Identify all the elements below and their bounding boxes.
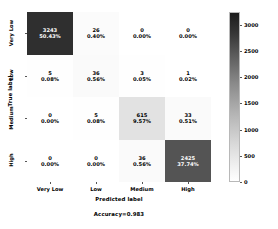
colorbar-tick-mark-5: [240, 51, 242, 52]
cell-percent: 9.57%: [133, 118, 151, 124]
matrix-cell-2-0: 0 0.00%: [27, 97, 73, 140]
matrix-cell-3-2: 36 0.56%: [119, 140, 165, 183]
matrix-cell-3-0: 0 0.00%: [27, 140, 73, 183]
x-tick-mark-0: [50, 182, 51, 184]
colorbar: 0 500 1000 1500 2000 2500 3000: [229, 12, 240, 182]
colorbar-tick-mark-0: [240, 182, 242, 183]
cell-percent: 50.43%: [39, 33, 61, 39]
cell-percent: 0.51%: [179, 118, 197, 124]
matrix-cell-0-1: 26 0.40%: [73, 12, 119, 55]
matrix-cell-3-1: 0 0.00%: [73, 140, 119, 183]
x-tick-mark-2: [142, 182, 143, 184]
cell-percent: 0.00%: [41, 118, 59, 124]
cell-percent: 0.00%: [179, 33, 197, 39]
cell-percent: 0.05%: [133, 76, 151, 82]
cell-percent: 0.40%: [87, 33, 105, 39]
confusion-matrix-figure: True label Very Low Low Medium High 3243…: [0, 0, 278, 229]
x-axis-title: Predicted label: [27, 196, 211, 202]
cell-percent: 0.00%: [133, 33, 151, 39]
colorbar-tick-mark-2: [240, 130, 242, 131]
cell-percent: 0.00%: [41, 161, 59, 167]
colorbar-tick-label-2: 1000: [244, 127, 258, 133]
matrix-cell-2-1: 5 0.08%: [73, 97, 119, 140]
x-tick-label-3: High: [165, 186, 211, 192]
cell-percent: 37.74%: [177, 161, 199, 167]
colorbar-gradient: [229, 12, 240, 182]
matrix-cell-1-0: 5 0.08%: [27, 55, 73, 98]
colorbar-tick-mark-1: [240, 156, 242, 157]
y-tick-label-3: High: [8, 138, 14, 182]
colorbar-tick-label-0: 0: [244, 179, 248, 185]
colorbar-tick-label-1: 500: [244, 153, 255, 159]
matrix-cell-2-2: 615 9.57%: [119, 97, 165, 140]
y-tick-label-0: Very Low: [8, 11, 14, 55]
colorbar-tick-label-3: 1500: [244, 100, 258, 106]
colorbar-tick-mark-6: [240, 25, 242, 26]
x-tick-mark-1: [96, 182, 97, 184]
matrix-cell-0-3: 0 0.00%: [165, 12, 211, 55]
colorbar-tick-label-5: 2500: [244, 48, 258, 54]
cell-percent: 0.56%: [87, 76, 105, 82]
matrix-cell-0-0: 3243 50.43%: [27, 12, 73, 55]
cell-percent: 0.00%: [87, 161, 105, 167]
cell-percent: 0.56%: [133, 161, 151, 167]
confusion-matrix-grid: 3243 50.43% 26 0.40% 0 0.00% 0 0.00% 5 0…: [27, 12, 211, 182]
accuracy-annotation: Accuracy=0.983: [27, 211, 211, 217]
x-tick-label-1: Low: [73, 186, 119, 192]
cell-percent: 0.02%: [179, 76, 197, 82]
cell-percent: 0.08%: [41, 76, 59, 82]
x-tick-mark-3: [188, 182, 189, 184]
colorbar-tick-label-4: 2000: [244, 74, 258, 80]
matrix-cell-3-3: 2425 37.74%: [165, 140, 211, 183]
matrix-cell-1-1: 36 0.56%: [73, 55, 119, 98]
matrix-cell-1-3: 1 0.02%: [165, 55, 211, 98]
y-tick-label-1: Low: [8, 53, 14, 97]
cell-percent: 0.08%: [87, 118, 105, 124]
matrix-cell-1-2: 3 0.05%: [119, 55, 165, 98]
x-tick-label-0: Very Low: [27, 186, 73, 192]
matrix-cell-2-3: 33 0.51%: [165, 97, 211, 140]
matrix-cell-0-2: 0 0.00%: [119, 12, 165, 55]
x-tick-label-2: Medium: [119, 186, 165, 192]
y-tick-label-2: Medium: [8, 96, 14, 140]
colorbar-tick-mark-4: [240, 77, 242, 78]
colorbar-tick-mark-3: [240, 103, 242, 104]
colorbar-tick-label-6: 3000: [244, 22, 258, 28]
